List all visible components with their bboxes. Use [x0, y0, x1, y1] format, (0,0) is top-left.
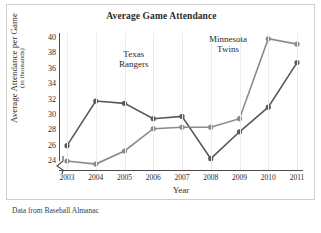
gridline: [96, 33, 97, 170]
series-label-texas-rangers-line1: Texas: [119, 49, 149, 59]
y-tick-label: 38: [40, 49, 56, 57]
x-tick-label: 2003: [60, 174, 75, 182]
chart-figure: Average Game Attendance Average Attendan…: [6, 4, 315, 200]
x-tick-label: 2011: [290, 174, 305, 182]
y-tick-label: 40: [40, 34, 56, 42]
y-tick-label: 30: [40, 111, 56, 119]
series-label-minnesota-twins-line1: Minnesota: [209, 34, 247, 44]
gridline: [268, 33, 269, 170]
y-tick-label: 28: [40, 126, 56, 134]
x-tick-label: 2006: [146, 174, 161, 182]
gridline: [67, 33, 68, 170]
x-tick-label: 2008: [203, 174, 218, 182]
axis-break-icon: [54, 155, 70, 175]
gridline: [297, 33, 298, 170]
y-axis-line: [59, 33, 60, 161]
y-tick-label: 34: [40, 80, 56, 88]
x-tick-label: 2010: [261, 174, 276, 182]
x-axis-label: Year: [59, 185, 303, 195]
series-label-minnesota-twins: Minnesota Twins: [209, 34, 247, 55]
x-tick-label: 2007: [175, 174, 190, 182]
y-axis-label: Average Attendance per Game (in thousand…: [10, 0, 32, 138]
x-axis-line: [59, 170, 303, 171]
y-axis-label-units: (in thousands): [19, 0, 26, 138]
gridline: [182, 33, 183, 170]
series-label-texas-rangers: Texas Rangers: [119, 49, 149, 70]
series-label-texas-rangers-line2: Rangers: [119, 59, 149, 69]
chart-title: Average Game Attendance: [7, 11, 316, 21]
y-tick-label: 36: [40, 65, 56, 73]
plot-area: 242628303234363840 200320042005200620072…: [59, 33, 301, 157]
x-tick-label: 2005: [117, 174, 132, 182]
x-tick-label: 2004: [88, 174, 103, 182]
y-tick-label: 26: [40, 142, 56, 150]
y-tick-label: 32: [40, 96, 56, 104]
gridline: [153, 33, 154, 170]
x-tick-label: 2009: [232, 174, 247, 182]
source-note: Data from Baseball Almanac: [12, 206, 99, 215]
series-label-minnesota-twins-line2: Twins: [209, 44, 247, 54]
